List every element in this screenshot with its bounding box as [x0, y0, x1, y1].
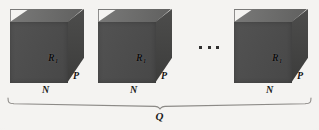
cube-2-depth-label: P — [161, 71, 167, 81]
cube-1-face-label-base: R — [48, 52, 55, 63]
cube-3-face-label-base: R — [272, 52, 279, 63]
ellipsis-icon — [199, 43, 219, 51]
cube-2-front-face — [98, 22, 156, 83]
ellipsis-dot — [199, 46, 202, 49]
cube-2-face-label-base: R — [136, 52, 143, 63]
brace-label: Q — [0, 110, 319, 122]
cube-3-width-label: N — [266, 85, 273, 95]
figure-canvas: R1 P N R1 P N R1 P N Q — [0, 0, 319, 130]
cube-3-face-label: R1 — [272, 53, 282, 63]
cube-2-face-label: R1 — [136, 53, 146, 63]
cube-3-face-label-subscript: 1 — [279, 57, 282, 64]
ellipsis-dot — [216, 46, 219, 49]
cube-1-depth-label: P — [73, 71, 79, 81]
cube-2-width-label: N — [130, 85, 137, 95]
cube-1-face-label: R1 — [48, 53, 58, 63]
cube-3-depth-label: P — [297, 71, 303, 81]
cube-1-width-label: N — [42, 85, 49, 95]
ellipsis-dot — [208, 46, 211, 49]
cube-2-face-label-subscript: 1 — [143, 57, 146, 64]
cube-3-front-face — [234, 22, 292, 83]
cube-1-front-face — [10, 22, 68, 83]
cube-1-face-label-subscript: 1 — [55, 57, 58, 64]
